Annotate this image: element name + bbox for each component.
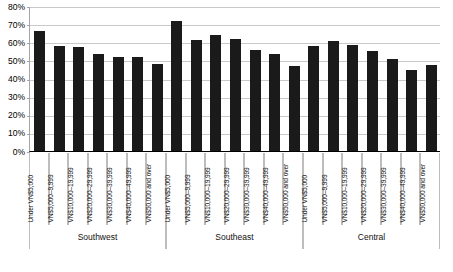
category-label-cell: VN$40,000–49,999: [127, 153, 147, 225]
category-label: VN$40,000–49,999: [401, 168, 408, 223]
bar: [250, 50, 261, 151]
y-axis-tick-label: 20%: [8, 111, 25, 120]
category-label: Under VN$5,000: [303, 175, 310, 223]
y-axis-tick-label: 40%: [8, 75, 25, 84]
category-label: VN$50,000 and over: [146, 164, 153, 223]
bar: [132, 57, 143, 151]
bar: [426, 65, 437, 151]
bar: [328, 41, 339, 151]
group-label: Southwest: [78, 232, 118, 242]
category-label: VN$30,000–39,999: [381, 168, 388, 223]
bar: [387, 59, 398, 151]
category-label-cell: VN$20,000–29,999: [362, 153, 382, 225]
plot-area: [29, 7, 440, 152]
category-label: VN$5,000–9,999: [322, 175, 329, 223]
category-label: VN$20,000–29,999: [225, 168, 232, 223]
category-label: VN$20,000–29,999: [88, 168, 95, 223]
category-label-cell: VN$5,000–9,999: [323, 153, 343, 225]
group-label-cell: Southwest: [29, 225, 166, 249]
category-label: VN$10,000–19,999: [68, 168, 75, 223]
bar: [347, 45, 358, 151]
y-axis-tick-label: 70%: [8, 21, 25, 30]
category-label-cell: VN$30,000–39,999: [244, 153, 264, 225]
category-label: VN$5,000–9,999: [185, 175, 192, 223]
category-label-cell: Under VN$5,000: [303, 153, 323, 225]
bar: [191, 40, 202, 151]
y-axis-tick-label: 0%: [13, 148, 25, 157]
category-label-cell: VN$5,000–9,999: [49, 153, 69, 225]
category-label: Under VN$5,000: [166, 175, 173, 223]
category-label: VN$40,000–49,999: [127, 168, 134, 223]
group-label: Southeast: [215, 232, 253, 242]
y-axis-tick-label: 30%: [8, 93, 25, 102]
category-label-cell: VN$30,000–39,999: [107, 153, 127, 225]
bar: [54, 46, 65, 151]
group-label-cell: Southeast: [166, 225, 303, 249]
y-axis-tick-label: 80%: [8, 3, 25, 12]
category-label-cell: VN$50,000 and over: [283, 153, 303, 225]
bar: [269, 54, 280, 151]
category-label-cell: VN$50,000 and over: [420, 153, 440, 225]
group-label: Central: [358, 232, 385, 242]
bar: [406, 70, 417, 151]
y-axis: 0%10%20%30%40%50%60%70%80%: [0, 0, 28, 152]
y-axis-tick-label: 10%: [8, 129, 25, 138]
category-label-cell: VN$5,000–9,999: [186, 153, 206, 225]
category-label: VN$40,000–49,999: [264, 168, 271, 223]
bar: [308, 46, 319, 151]
y-axis-tick-label: 60%: [8, 39, 25, 48]
category-label: VN$50,000 and over: [283, 164, 290, 223]
bar: [113, 57, 124, 151]
group-label-cell: Central: [303, 225, 440, 249]
category-label: VN$10,000–19,999: [342, 168, 349, 223]
bar: [171, 21, 182, 151]
category-label-cell: VN$10,000–19,999: [205, 153, 225, 225]
bar: [152, 64, 163, 151]
group-axis-labels: SouthwestSoutheastCentral: [29, 225, 440, 249]
bar: [210, 35, 221, 151]
category-label-cell: VN$40,000–49,999: [401, 153, 421, 225]
bars-layer: [30, 7, 440, 151]
bar: [367, 51, 378, 151]
bar: [289, 66, 300, 151]
category-label: VN$30,000–39,999: [107, 168, 114, 223]
bar-chart: 0%10%20%30%40%50%60%70%80% Under VN$5,00…: [0, 0, 453, 272]
category-label-cell: VN$30,000–39,999: [381, 153, 401, 225]
bar: [230, 39, 241, 151]
category-axis-labels: Under VN$5,000VN$5,000–9,999VN$10,000–19…: [29, 153, 440, 225]
category-label-cell: VN$10,000–19,999: [68, 153, 88, 225]
category-label: VN$30,000–39,999: [244, 168, 251, 223]
category-label-cell: Under VN$5,000: [29, 153, 49, 225]
category-label-cell: VN$20,000–29,999: [88, 153, 108, 225]
category-label: VN$10,000–19,999: [205, 168, 212, 223]
category-label-cell: VN$50,000 and over: [146, 153, 166, 225]
bar: [93, 54, 104, 151]
category-label: VN$50,000 and over: [420, 164, 427, 223]
category-label: VN$5,000–9,999: [48, 175, 55, 223]
category-label-cell: Under VN$5,000: [166, 153, 186, 225]
bar: [34, 31, 45, 151]
y-axis-tick-label: 50%: [8, 57, 25, 66]
category-label-cell: VN$40,000–49,999: [264, 153, 284, 225]
category-label-cell: VN$20,000–29,999: [225, 153, 245, 225]
category-label: VN$20,000–29,999: [362, 168, 369, 223]
category-label-cell: VN$10,000–19,999: [342, 153, 362, 225]
category-label: Under VN$5,000: [29, 175, 36, 223]
bar: [73, 47, 84, 151]
